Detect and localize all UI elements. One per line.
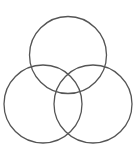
circle-top [30, 17, 107, 94]
circle-right [54, 65, 132, 143]
venn-diagram [0, 0, 140, 152]
circle-left [4, 65, 82, 143]
